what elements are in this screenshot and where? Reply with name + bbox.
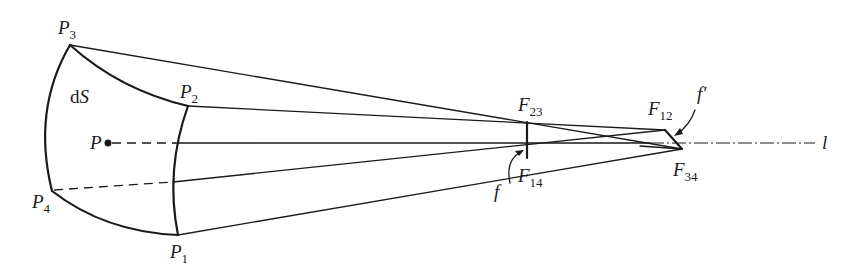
surface-patch-ds (45, 45, 188, 235)
label-p3: P3 (57, 17, 76, 42)
label-p2: P2 (179, 81, 198, 106)
label-f12: F12 (647, 98, 673, 123)
ray-p4 (173, 130, 665, 182)
edge-p2-p1 (173, 106, 188, 235)
label-f14: F14 (517, 165, 543, 190)
ray-p1 (178, 149, 682, 235)
label-ds: dS (70, 86, 90, 107)
edge-p1-p4 (52, 191, 178, 235)
label-f23: F23 (517, 94, 543, 119)
ray-bundle (70, 45, 682, 235)
diagram-canvas: P3 dS P2 P P4 P1 F23 F14 f F12 f′ F34 l (0, 0, 850, 277)
label-p1: P1 (169, 241, 188, 266)
point-p-dot (105, 140, 112, 147)
arrowhead-f-prime-icon (674, 128, 683, 136)
label-f: f (494, 181, 502, 202)
edge-p4-p3 (45, 45, 70, 191)
label-p: P (89, 132, 102, 153)
ray-p2 (188, 106, 665, 130)
label-f34: F34 (672, 159, 698, 184)
label-p4: P4 (31, 191, 51, 216)
dashed-ray-from-p4 (54, 182, 173, 190)
label-f-prime: f′ (697, 83, 707, 104)
label-axis-l: l (822, 132, 827, 153)
ray-p3 (70, 45, 682, 149)
